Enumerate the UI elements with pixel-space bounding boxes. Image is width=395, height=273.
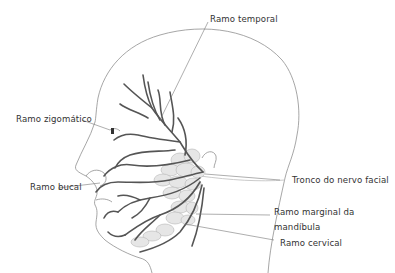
head-illustration <box>0 0 395 273</box>
label-ramo-cervical: Ramo cervical <box>280 238 342 248</box>
label-ramo-bucal: Ramo bucal <box>30 182 82 192</box>
label-ramo-marginal-line2: mandíbula <box>274 222 320 232</box>
label-ramo-zigomatico: Ramo zigomático <box>16 114 92 124</box>
label-ramo-temporal: Ramo temporal <box>210 14 278 24</box>
facial-nerve-diagram: Ramo temporal Ramo zigomático Ramo bucal… <box>0 0 395 273</box>
eye-mark <box>111 128 114 134</box>
label-tronco-nervo-facial: Tronco do nervo facial <box>292 175 389 185</box>
label-ramo-marginal-line1: Ramo marginal da <box>274 207 354 217</box>
